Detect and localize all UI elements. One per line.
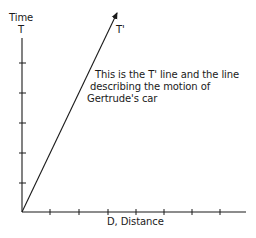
t-prime-label: T' [116, 24, 125, 36]
annotation-line-2: describing the motion of [90, 81, 210, 93]
spacetime-diagram [0, 0, 256, 238]
t-prime-line [22, 13, 117, 212]
annotation-line-1: This is the T' line and the line [95, 69, 239, 81]
y-axis-title: Time [9, 12, 33, 24]
annotation-line-3: Gertrude's car [87, 93, 157, 105]
y-axis-symbol: T [18, 24, 24, 36]
x-axis-label: D, Distance [107, 216, 164, 228]
